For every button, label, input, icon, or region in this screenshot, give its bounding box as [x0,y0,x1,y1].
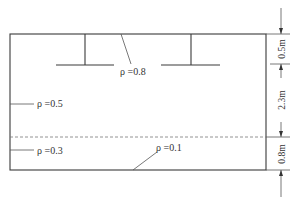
rho-upper-label: ρ =0.5 [37,98,63,109]
dimension-0-5m: 0.5m [277,39,287,59]
rho-top-leader [121,34,131,64]
rho-lower-label: ρ =0.3 [37,145,63,156]
rho-bottom-leader [133,152,157,170]
dimension-2-3m: 2.3m [277,90,287,110]
rho-bottom-label: ρ =0.1 [156,142,182,153]
left-footing [56,34,114,65]
soil-diagram: ρ =0.8 ρ =0.5 ρ =0.3 ρ =0.1 0.5m 2.3m 0.… [0,0,294,203]
right-footing [161,34,220,65]
rho-top-label: ρ =0.8 [120,66,146,77]
dimension-0-8m: 0.8m [277,144,287,164]
